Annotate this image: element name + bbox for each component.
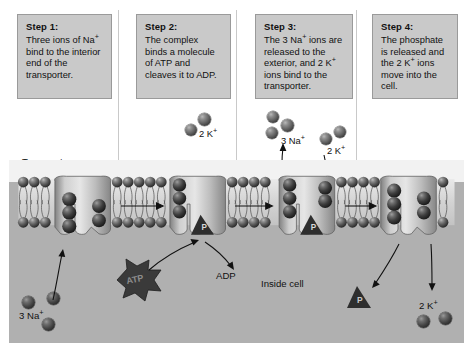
phospholipid-head	[438, 177, 449, 188]
phospholipid-head	[260, 177, 271, 188]
phospholipid-head	[227, 217, 238, 228]
transporter-protein-2: P	[170, 176, 226, 235]
sodium-ion-released	[283, 205, 296, 218]
phospholipid-head	[358, 177, 369, 188]
sodium-ion-released	[283, 178, 296, 191]
phospholipid-head	[336, 177, 347, 188]
sodium-ion-bound	[62, 219, 76, 233]
step-4-heading: Step 4:	[381, 21, 450, 33]
phospholipid-head	[112, 217, 123, 228]
svg-text:P: P	[357, 295, 363, 305]
potassium-ion-bound	[318, 194, 332, 208]
svg-text:P: P	[202, 223, 208, 232]
potassium-ion	[198, 113, 211, 126]
transporter-protein-3: P	[279, 176, 335, 235]
sodium-ion-bound	[92, 199, 106, 213]
potassium-ion-bound	[417, 191, 431, 205]
phospholipid-head	[145, 177, 156, 188]
phospholipid-head	[347, 217, 358, 228]
phospholipid-head	[18, 217, 29, 228]
atp-molecule: ATP	[117, 259, 161, 301]
sodium-ion-bound	[62, 192, 76, 206]
phospholipid-head	[29, 177, 40, 188]
step-4-body: The phosphate is released and the 2 K+ i…	[381, 35, 450, 93]
panel-divider-3	[356, 10, 357, 160]
phospholipid-head	[112, 177, 123, 188]
phospholipid-head	[18, 177, 29, 188]
phospholipid-head	[347, 177, 358, 188]
sodium-ion	[266, 127, 278, 139]
step-box-1: Step 1: Three ions of Na+ bind to the in…	[17, 14, 112, 99]
sodium-ion-bound	[173, 192, 186, 205]
potassium-ion	[185, 124, 197, 136]
potassium-ion-bound	[318, 181, 332, 195]
sodium-ion	[267, 111, 279, 123]
sodium-ion	[47, 292, 60, 305]
diagram-canvas: Step 1: Three ions of Na+ bind to the in…	[0, 0, 473, 356]
sodium-ion	[281, 119, 294, 132]
phospholipid-head	[238, 177, 249, 188]
sodium-ion-bound	[92, 213, 106, 227]
membrane-bilayer: P P	[9, 160, 464, 252]
sodium-ion-released	[283, 192, 296, 205]
step-3-body: The 3 Na+ ions are released to the exter…	[264, 35, 345, 93]
phospholipid-head	[238, 217, 249, 228]
potassium-ion-bound	[387, 184, 401, 198]
phospholipid-head	[29, 217, 40, 228]
steps-panel-region: Step 1: Three ions of Na+ bind to the in…	[0, 0, 473, 160]
phospholipid-head	[369, 217, 380, 228]
sodium-ion	[22, 296, 35, 309]
step-2-body: The complex binds a molecule of ATP and …	[145, 35, 223, 81]
step-box-4: Step 4: The phosphate is released and th…	[372, 14, 458, 99]
potassium-ion	[439, 312, 452, 325]
potassium-ion	[417, 315, 430, 328]
potassium-ion	[320, 133, 332, 145]
phospholipid-head	[358, 217, 369, 228]
phospholipid-head	[123, 217, 134, 228]
phospholipid-head	[227, 177, 238, 188]
step-1-body: Three ions of Na+ bind to the interior e…	[26, 35, 104, 81]
step-box-2: Step 2: The complex binds a molecule of …	[136, 14, 231, 99]
sodium-ion-bound	[173, 178, 186, 191]
sodium-ion-bound	[62, 206, 76, 220]
phospholipid-head	[369, 177, 380, 188]
svg-text:ATP: ATP	[125, 273, 144, 286]
sodium-label-step3: 3 Na+	[281, 135, 305, 146]
panel-divider-2	[236, 10, 237, 160]
step-1-heading: Step 1:	[26, 21, 104, 33]
phospholipid-head	[145, 217, 156, 228]
step-2-heading: Step 2:	[145, 21, 223, 33]
free-phosphate: P	[347, 286, 371, 308]
phospholipid-head	[336, 217, 347, 228]
phospholipid-head	[249, 217, 260, 228]
sodium-ion	[42, 318, 55, 331]
potassium-ion	[334, 126, 346, 138]
phospholipid-head	[249, 177, 260, 188]
step-box-3: Step 3: The 3 Na+ ions are released to t…	[255, 14, 353, 99]
potassium-label-step4: 2 K+	[419, 300, 438, 311]
phospholipid-head	[40, 177, 51, 188]
phospholipid-head	[156, 217, 167, 228]
phospholipid-head	[134, 217, 145, 228]
sodium-ion-bound	[173, 205, 186, 218]
phospholipid-head	[260, 217, 271, 228]
potassium-ion-bound	[417, 206, 431, 220]
phospholipid-head	[123, 177, 134, 188]
transporter-protein-1	[55, 176, 111, 234]
phospholipid-head	[438, 217, 449, 228]
cell-area: P P	[9, 160, 464, 343]
phospholipid-head	[134, 177, 145, 188]
potassium-ion-bound	[387, 210, 401, 224]
phospholipid-head	[40, 217, 51, 228]
transporter-protein-4	[380, 176, 436, 234]
panel-divider-1	[118, 10, 119, 160]
inside-cell-label: Inside cell	[261, 278, 304, 289]
adp-label: ADP	[216, 270, 236, 281]
svg-text:P: P	[311, 223, 317, 232]
sodium-label-step1: 3 Na+	[19, 310, 44, 321]
potassium-label-step3-binding: 2 K+	[327, 145, 345, 156]
potassium-ion-bound	[387, 197, 401, 211]
phospholipid-head	[156, 177, 167, 188]
potassium-label-step2: 2 K+	[199, 128, 217, 139]
